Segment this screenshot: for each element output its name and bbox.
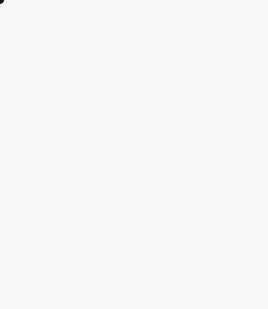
plot-svg bbox=[0, 0, 268, 309]
point-p-4-1 bbox=[0, 0, 4, 4]
points bbox=[0, 0, 4, 4]
coordinate-plane bbox=[0, 0, 268, 309]
